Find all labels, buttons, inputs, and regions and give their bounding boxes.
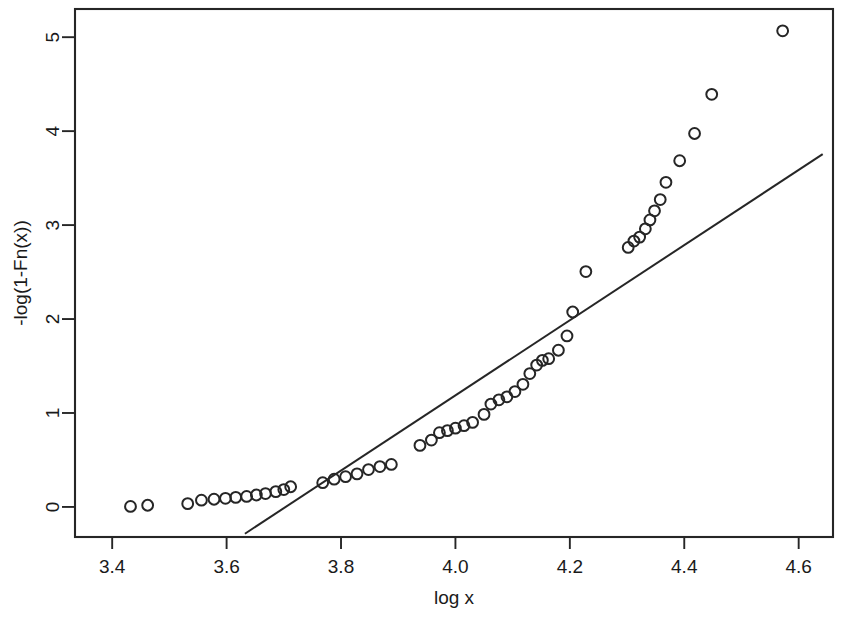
- data-point: [580, 266, 591, 277]
- x-tick-label: 3.8: [328, 556, 354, 577]
- data-point: [553, 345, 564, 356]
- y-axis-title: -log(1-Fn(x)): [10, 220, 31, 326]
- plot-border: [75, 9, 833, 537]
- x-axis-title: log x: [434, 587, 475, 608]
- chart-figure: 3.43.63.84.04.24.44.6 012345 log x -log(…: [0, 0, 844, 622]
- data-point: [340, 471, 351, 482]
- data-point: [661, 177, 672, 188]
- data-point: [125, 501, 136, 512]
- data-point: [649, 205, 660, 216]
- data-point: [142, 500, 153, 511]
- data-point: [375, 461, 386, 472]
- data-point: [518, 379, 529, 390]
- data-point: [230, 492, 241, 503]
- data-point: [655, 194, 666, 205]
- y-tick-label: 5: [42, 32, 63, 43]
- x-tick-label: 3.6: [213, 556, 239, 577]
- y-axis-ticks: 012345: [42, 32, 75, 512]
- x-tick-label: 4.6: [785, 556, 811, 577]
- data-point: [543, 353, 554, 364]
- y-tick-label: 4: [42, 125, 63, 136]
- x-axis-ticks: 3.43.63.84.04.24.44.6: [99, 537, 812, 577]
- data-point: [182, 498, 193, 509]
- y-tick-label: 3: [42, 220, 63, 231]
- x-tick-label: 4.0: [442, 556, 468, 577]
- data-points-layer: [125, 25, 788, 511]
- data-point: [352, 468, 363, 479]
- data-point: [479, 409, 490, 420]
- data-point: [220, 493, 231, 504]
- data-point: [562, 331, 573, 342]
- fitted-reference-line: [245, 154, 823, 534]
- data-point: [415, 440, 426, 451]
- data-point: [196, 495, 207, 506]
- y-tick-label: 1: [42, 408, 63, 419]
- qq-exceedance-plot: 3.43.63.84.04.24.44.6 012345 log x -log(…: [0, 0, 844, 622]
- data-point: [706, 89, 717, 100]
- data-point: [386, 459, 397, 470]
- data-point: [689, 128, 700, 139]
- data-point: [363, 464, 374, 475]
- x-tick-label: 4.4: [671, 556, 698, 577]
- x-tick-label: 4.2: [557, 556, 583, 577]
- data-point: [674, 155, 685, 166]
- data-point: [209, 494, 220, 505]
- data-point: [777, 25, 788, 36]
- plot-frame: [75, 9, 833, 537]
- x-tick-label: 3.4: [99, 556, 126, 577]
- y-tick-label: 0: [42, 502, 63, 513]
- fitted-line-layer: [245, 154, 823, 534]
- data-point: [285, 481, 296, 492]
- y-tick-label: 2: [42, 314, 63, 325]
